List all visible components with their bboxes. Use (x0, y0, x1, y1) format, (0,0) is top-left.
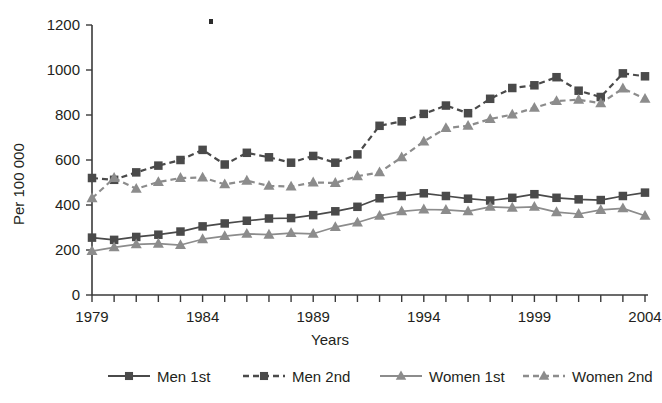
data-point-triangle (463, 120, 474, 130)
data-point-square (464, 109, 473, 118)
data-point-triangle (197, 172, 208, 182)
data-point-square (331, 158, 340, 167)
legend-item-women-1st[interactable]: Women 1st (380, 368, 505, 385)
y-tick-label: 600 (55, 151, 80, 168)
data-point-square (420, 189, 429, 198)
data-point-square (265, 153, 274, 162)
y-tick-label: 200 (55, 241, 80, 258)
y-axis-title: Per 100 000 (10, 143, 27, 225)
x-axis: 197919841989199419992004 (75, 295, 661, 325)
data-point-square (641, 72, 650, 81)
data-point-triangle (640, 93, 651, 103)
data-point-square (198, 222, 207, 231)
data-point-square (375, 122, 384, 131)
data-point-square (508, 84, 517, 93)
data-point-square (530, 190, 539, 199)
data-point-triangle (617, 83, 628, 93)
data-point-triangle (286, 227, 297, 237)
data-point-square (353, 150, 362, 159)
data-point-triangle (374, 166, 385, 176)
data-point-square (442, 101, 451, 110)
y-tick-label: 1200 (47, 16, 80, 33)
data-point-square (265, 214, 274, 223)
data-point-triangle (418, 136, 429, 146)
data-point-square (287, 158, 296, 167)
series-line (92, 73, 645, 179)
data-point-triangle (308, 177, 319, 187)
data-point-square (198, 146, 207, 155)
series-line (92, 207, 645, 251)
y-tick-label: 800 (55, 106, 80, 123)
data-point-square (88, 233, 97, 242)
data-point-square (375, 194, 384, 203)
data-point-square (331, 207, 340, 216)
data-point-square (125, 372, 133, 380)
artifact-speck (209, 19, 213, 24)
data-point-triangle (241, 228, 252, 238)
data-point-triangle (573, 94, 584, 104)
x-axis-title-label: Years (311, 331, 349, 348)
data-point-square (309, 152, 318, 161)
data-point-square (397, 117, 406, 126)
line-chart: Per 100 000 020040060080010001200 197919… (0, 0, 662, 403)
legend-item-men-2nd[interactable]: Men 2nd (243, 368, 350, 385)
data-point-triangle (153, 238, 164, 248)
data-point-triangle (418, 204, 429, 214)
series-women-1st (87, 201, 651, 255)
data-point-square (442, 192, 451, 201)
series-men-2nd (88, 69, 650, 184)
data-point-square (508, 194, 517, 203)
data-point-square (220, 160, 229, 169)
x-tick-label: 1984 (186, 308, 219, 325)
x-tick-label: 2004 (628, 308, 661, 325)
data-point-square (154, 161, 163, 170)
legend-label: Women 1st (429, 368, 505, 385)
data-point-square (243, 217, 252, 226)
data-point-square (176, 156, 185, 165)
data-point-square (597, 196, 606, 205)
data-point-triangle (617, 202, 628, 212)
data-point-triangle (440, 204, 451, 214)
series-men-1st (88, 188, 650, 244)
data-point-square (552, 73, 561, 82)
x-tick-label: 1989 (297, 308, 330, 325)
chart-container: Per 100 000 020040060080010001200 197919… (0, 0, 662, 403)
data-point-square (574, 86, 583, 95)
data-point-square (574, 195, 583, 204)
legend-label: Women 2nd (572, 368, 653, 385)
data-point-triangle (396, 151, 407, 161)
chart-legend: Men 1stMen 2ndWomen 1stWomen 2nd (108, 368, 653, 385)
plot-area (87, 69, 651, 255)
data-point-square (619, 69, 628, 78)
x-tick-label: 1979 (75, 308, 108, 325)
x-tick-label: 1994 (407, 308, 440, 325)
x-tick-label: 1999 (518, 308, 551, 325)
data-point-square (619, 192, 628, 201)
data-point-triangle (286, 181, 297, 191)
legend-item-women-2nd[interactable]: Women 2nd (523, 368, 653, 385)
legend-item-men-1st[interactable]: Men 1st (108, 368, 211, 385)
y-tick-label: 400 (55, 196, 80, 213)
data-point-square (486, 95, 495, 104)
legend-label: Men 2nd (292, 368, 350, 385)
data-point-square (287, 214, 296, 223)
y-tick-label: 1000 (47, 61, 80, 78)
data-point-square (420, 110, 429, 119)
data-point-square (397, 192, 406, 201)
y-tick-label: 0 (72, 286, 80, 303)
legend-label: Men 1st (157, 368, 211, 385)
series-women-2nd (87, 83, 651, 203)
data-point-square (309, 211, 318, 220)
data-point-triangle (440, 122, 451, 132)
data-point-square (353, 203, 362, 212)
data-point-triangle (241, 175, 252, 185)
series-line (92, 88, 645, 198)
data-point-square (552, 194, 561, 203)
y-axis: 020040060080010001200 (47, 16, 92, 303)
data-point-square (220, 219, 229, 228)
data-point-square (464, 194, 473, 203)
data-point-square (260, 372, 268, 380)
y-axis-title-label: Per 100 000 (10, 143, 27, 225)
data-point-square (176, 227, 185, 236)
data-point-square (243, 149, 252, 158)
